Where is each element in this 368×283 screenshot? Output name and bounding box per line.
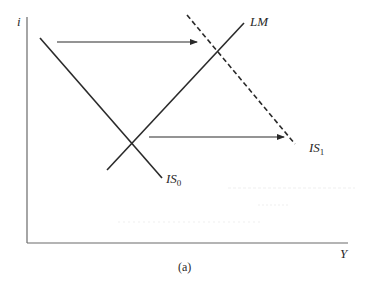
faint-artifacts	[118, 188, 355, 222]
is1-label: IS1	[308, 140, 324, 157]
lm-curve: LM	[107, 14, 269, 170]
is0-label: IS0	[165, 171, 182, 188]
figure-caption: (a)	[178, 260, 191, 274]
y-axis-label: i	[17, 14, 21, 29]
is1-curve: IS1	[187, 15, 324, 157]
is-lm-diagram: i Y IS0 LM IS1 (a)	[0, 0, 368, 283]
x-axis-label: Y	[340, 246, 349, 261]
lm-label: LM	[249, 14, 269, 29]
